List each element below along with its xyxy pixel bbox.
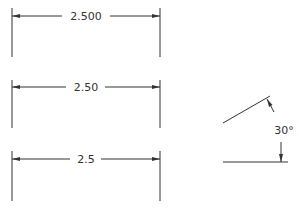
dimension-2500: 2.500 <box>12 8 160 57</box>
dimension-label: 2.5 <box>77 153 95 166</box>
dimension-250: 2.50 <box>12 80 160 128</box>
angle-dimension: 30° <box>223 96 294 162</box>
angle-label: 30° <box>274 124 294 137</box>
angle-arrow-top <box>267 99 274 112</box>
dimension-label: 2.50 <box>74 81 99 94</box>
dimension-drawing: 2.500 2.50 2.5 30° <box>0 0 299 209</box>
angled-line <box>223 96 270 123</box>
dimension-label: 2.500 <box>70 10 102 23</box>
dimension-25: 2.5 <box>12 151 160 201</box>
